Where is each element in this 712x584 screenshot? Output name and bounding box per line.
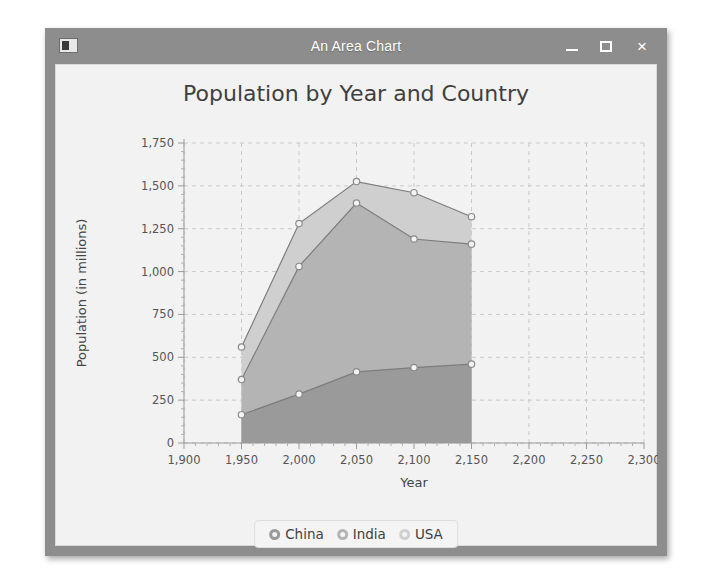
svg-text:500: 500	[152, 350, 174, 364]
legend-label: USA	[415, 526, 443, 542]
svg-text:0: 0	[167, 436, 174, 450]
minimize-icon	[566, 49, 578, 51]
svg-text:1,500: 1,500	[141, 179, 174, 193]
legend-item-india[interactable]: India	[337, 526, 386, 542]
svg-text:2,200: 2,200	[513, 453, 546, 467]
legend-label: India	[353, 526, 386, 542]
svg-text:1,250: 1,250	[141, 222, 174, 236]
minimize-button[interactable]	[555, 28, 589, 64]
svg-text:2,050: 2,050	[340, 453, 373, 467]
svg-text:1,950: 1,950	[225, 453, 258, 467]
svg-text:250: 250	[152, 393, 174, 407]
circle-marker-china	[269, 529, 280, 540]
chart-canvas: 02505007501,0001,2501,5001,7501,9001,950…	[56, 65, 658, 547]
svg-text:2,000: 2,000	[283, 453, 316, 467]
title-bar[interactable]: An Area Chart ×	[45, 28, 667, 64]
svg-text:2,150: 2,150	[455, 453, 488, 467]
circle-marker-india	[337, 529, 348, 540]
svg-text:2,250: 2,250	[570, 453, 603, 467]
chart-legend[interactable]: ChinaIndiaUSA	[254, 520, 458, 548]
maximize-icon	[600, 41, 612, 52]
svg-text:1,000: 1,000	[141, 265, 174, 279]
circle-marker-usa	[399, 529, 410, 540]
client-area: Population by Year and Country 025050075…	[55, 64, 657, 546]
close-button[interactable]: ×	[625, 28, 659, 64]
application-window: An Area Chart × Population by Year and C…	[45, 28, 667, 556]
svg-text:1,900: 1,900	[168, 453, 201, 467]
area-chart-svg: 02505007501,0001,2501,5001,7501,9001,950…	[56, 65, 658, 547]
maximize-button[interactable]	[589, 28, 623, 64]
svg-text:750: 750	[152, 307, 174, 321]
legend-item-usa[interactable]: USA	[399, 526, 443, 542]
legend-item-china[interactable]: China	[269, 526, 324, 542]
svg-text:1,750: 1,750	[141, 136, 174, 150]
x-axis-title: Year	[399, 475, 428, 490]
legend-label: China	[285, 526, 324, 542]
y-axis-title: Population (in millions)	[74, 219, 89, 368]
close-icon: ×	[637, 38, 647, 55]
svg-text:2,300: 2,300	[628, 453, 658, 467]
svg-text:2,100: 2,100	[398, 453, 431, 467]
